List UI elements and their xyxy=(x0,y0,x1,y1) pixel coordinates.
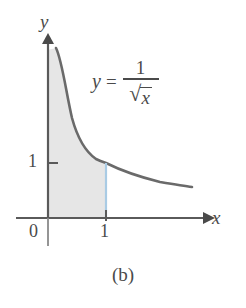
x-axis-tick-label-1: 1 xyxy=(100,222,109,240)
radicand: x xyxy=(140,87,151,109)
equation-lhs: y xyxy=(92,70,101,93)
y-axis-arrow-icon xyxy=(42,33,54,44)
fraction-numerator: 1 xyxy=(130,58,152,78)
figure-caption: (b) xyxy=(0,264,246,286)
x-axis-label: x xyxy=(212,208,220,227)
y-axis-tick-label-1: 1 xyxy=(28,152,37,170)
origin-label: 0 xyxy=(29,222,38,240)
equation-fraction: 1 √ x xyxy=(123,58,159,105)
equation-operator: = xyxy=(106,71,117,93)
equation-annotation: y = 1 √ x xyxy=(92,58,159,105)
square-root-expression: √ x xyxy=(129,81,152,105)
fraction-denominator: √ x xyxy=(129,80,152,105)
y-axis-label: y xyxy=(40,12,48,31)
figure-container: y x 1 0 1 y = 1 √ x (b) xyxy=(0,0,246,308)
